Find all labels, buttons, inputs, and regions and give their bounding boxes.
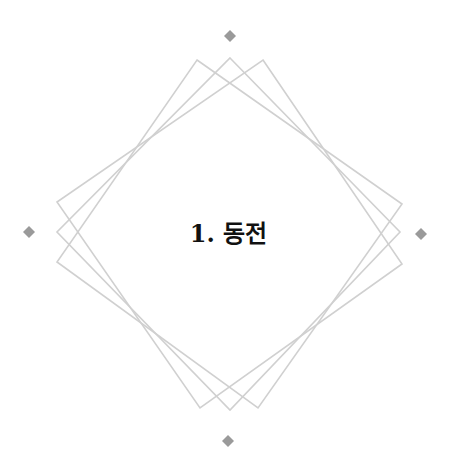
diamond-bottom-icon	[222, 435, 234, 447]
diamond-top-icon	[224, 30, 236, 42]
title-card: 1. 동전	[0, 0, 457, 454]
section-title: 1. 동전	[0, 214, 457, 249]
